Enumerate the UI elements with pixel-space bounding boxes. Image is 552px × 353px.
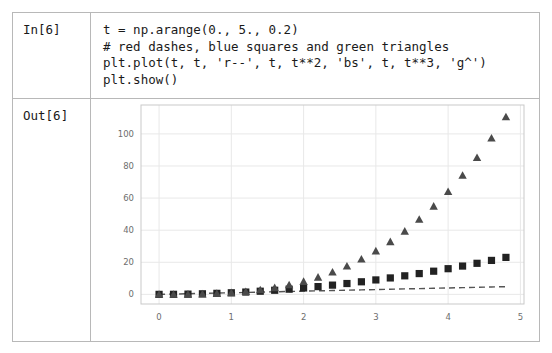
series-square-marker	[459, 262, 466, 269]
output-cell-row: Out[6] 020406080100012345	[13, 99, 539, 342]
series-square-marker	[329, 282, 336, 289]
y-tick-label: 80	[123, 161, 134, 171]
input-prompt-label: In[6]	[13, 13, 91, 98]
series-triangle-marker	[299, 277, 307, 285]
x-tick-label: 2	[301, 312, 306, 322]
y-tick-label: 40	[123, 225, 134, 235]
series-triangle-marker	[458, 171, 466, 179]
series-triangle-marker	[343, 262, 351, 270]
y-tick-label: 100	[118, 129, 134, 139]
y-tick-label: 20	[123, 257, 134, 267]
matplotlib-figure: 020406080100012345	[91, 99, 539, 342]
y-tick-label: 0	[129, 289, 134, 299]
x-tick-label: 1	[229, 312, 234, 322]
series-triangle-marker	[429, 202, 437, 210]
series-square-marker	[314, 283, 321, 290]
series-square-marker	[358, 278, 365, 285]
y-tick-label: 60	[123, 193, 134, 203]
series-square-marker	[488, 257, 495, 264]
code-line: t = np.arange(0., 5., 0.2)	[103, 22, 539, 39]
series-square-marker	[300, 284, 307, 291]
series-triangle-marker	[372, 247, 380, 255]
x-tick-label: 4	[445, 312, 450, 322]
plot-canvas: 020406080100012345	[91, 99, 539, 342]
output-area: 020406080100012345	[91, 99, 539, 342]
series-square-marker	[372, 276, 379, 283]
code-line: # red dashes, blue squares and green tri…	[103, 39, 539, 56]
series-triangle-marker	[473, 153, 481, 161]
series-triangle-marker	[314, 273, 322, 281]
series-triangle-marker	[386, 238, 394, 246]
input-cell-row: In[6] t = np.arange(0., 5., 0.2) # red d…	[13, 13, 539, 99]
series-triangle-marker	[502, 113, 510, 121]
code-line: plt.plot(t, t, 'r--', t, t**2, 'bs', t, …	[103, 55, 539, 72]
series-square-marker	[430, 268, 437, 275]
screenshot-root: In[6] t = np.arange(0., 5., 0.2) # red d…	[0, 0, 552, 353]
series-square-marker	[343, 280, 350, 287]
output-prompt-label: Out[6]	[13, 99, 91, 342]
x-tick-label: 5	[518, 312, 523, 322]
series-triangle-marker	[328, 268, 336, 276]
series-triangle-marker	[487, 134, 495, 142]
series-square-marker	[473, 260, 480, 267]
x-tick-label: 3	[373, 312, 378, 322]
series-triangle-marker	[357, 255, 365, 263]
series-triangle-marker	[285, 281, 293, 289]
series-triangle-marker	[401, 227, 409, 235]
series-square-marker	[502, 254, 509, 261]
notebook-cell-table: In[6] t = np.arange(0., 5., 0.2) # red d…	[12, 12, 540, 342]
series-square-marker	[445, 265, 452, 272]
x-tick-label: 0	[156, 312, 161, 322]
series-triangle-marker	[444, 187, 452, 195]
code-line: plt.show()	[103, 72, 539, 89]
series-square-marker	[401, 272, 408, 279]
series-square-marker	[387, 274, 394, 281]
series-triangle-marker	[415, 215, 423, 223]
code-editor[interactable]: t = np.arange(0., 5., 0.2) # red dashes,…	[91, 13, 539, 98]
series-square-marker	[416, 270, 423, 277]
